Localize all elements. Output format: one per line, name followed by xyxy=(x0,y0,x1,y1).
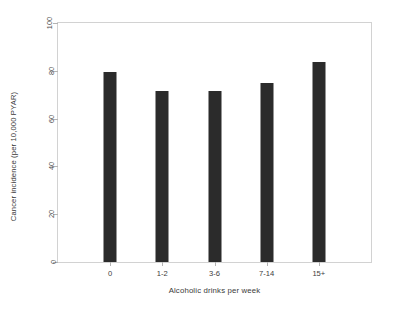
y-tick-label: 40 xyxy=(46,162,55,170)
x-tick-mark xyxy=(110,262,111,266)
y-tick-label: 0 xyxy=(48,260,57,264)
bar xyxy=(312,62,325,262)
x-tick-mark xyxy=(162,262,163,266)
y-tick-mark xyxy=(53,23,58,24)
x-tick-label: 1-2 xyxy=(157,269,168,278)
plot-area: 020406080100 01-23-67-1415+ xyxy=(57,22,372,263)
y-axis-title: Cancer incidence (per 10,000 PYAR) xyxy=(0,0,26,313)
y-tick-label: 60 xyxy=(46,114,55,122)
bar xyxy=(156,91,169,262)
x-axis-title: Alcoholic drinks per week xyxy=(57,286,372,295)
x-tick-label: 0 xyxy=(108,269,112,278)
bar xyxy=(104,72,117,262)
x-tick-label: 7-14 xyxy=(259,269,274,278)
y-tick-label: 80 xyxy=(46,67,55,75)
x-tick-mark xyxy=(215,262,216,266)
x-tick-mark xyxy=(267,262,268,266)
bar-chart-figure: Cancer incidence (per 10,000 PYAR) 02040… xyxy=(0,0,396,313)
x-tick-label: 3-6 xyxy=(209,269,220,278)
bar xyxy=(208,91,221,262)
y-tick-label: 20 xyxy=(46,210,55,218)
x-tick-label: 15+ xyxy=(312,269,325,278)
x-tick-mark xyxy=(319,262,320,266)
bar xyxy=(260,83,273,262)
y-tick-label: 100 xyxy=(44,17,53,29)
